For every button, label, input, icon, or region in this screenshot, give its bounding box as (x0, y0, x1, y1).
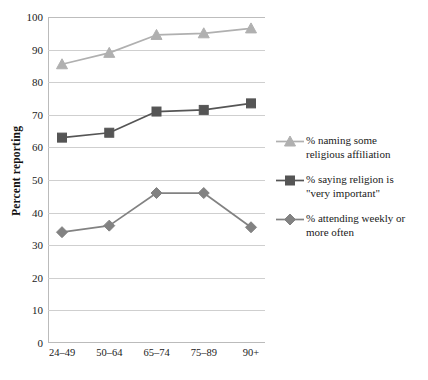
y-tick-label-100: 100 (3, 11, 43, 23)
y-tick-label-10: 10 (3, 304, 43, 316)
y-tick-label-0: 0 (3, 337, 43, 349)
data-point-2-4 (246, 222, 257, 233)
x-tick-label-4: 90+ (243, 347, 259, 358)
y-tick-label-80: 80 (3, 76, 43, 88)
data-point-1-0 (58, 133, 67, 142)
data-point-0-4 (246, 23, 257, 33)
data-point-2-3 (198, 188, 209, 199)
data-point-1-4 (247, 99, 256, 108)
y-tick-label-70: 70 (3, 109, 43, 121)
y-axis-tick-labels: 0102030405060708090100 (0, 17, 43, 343)
legend-marker-triangle-icon (276, 135, 304, 148)
y-tick-label-30: 30 (3, 239, 43, 251)
y-tick-label-50: 50 (3, 174, 43, 186)
y-tick-label-90: 90 (3, 44, 43, 56)
x-tick-label-2: 65–74 (143, 347, 169, 358)
y-tick-label-60: 60 (3, 141, 43, 153)
data-point-1-3 (199, 105, 208, 114)
line-chart: Percent reporting 0102030405060708090100… (0, 0, 428, 380)
series-2 (57, 188, 257, 238)
x-tick-label-1: 50–64 (96, 347, 122, 358)
legend-entry-0[interactable]: % naming somereligious affiliation (276, 134, 426, 161)
data-point-2-2 (151, 188, 162, 199)
data-point-2-1 (104, 220, 115, 231)
legend-marker-diamond-icon (276, 213, 304, 226)
legend-label-1-line2: "very important" (306, 187, 426, 201)
legend-label-1-line1: % saying religion is (306, 173, 426, 187)
y-tick-label-40: 40 (3, 207, 43, 219)
legend-entry-2[interactable]: % attending weekly ormore often (276, 212, 426, 239)
x-tick-label-0: 24–49 (49, 347, 75, 358)
x-axis-tick-labels: 24–4950–6465–7475–8990+ (48, 347, 265, 367)
data-point-1-1 (105, 128, 114, 137)
legend-marker-square-icon (276, 174, 304, 187)
data-point-2-0 (57, 227, 68, 238)
data-point-1-2 (152, 107, 161, 116)
y-tick-label-20: 20 (3, 272, 43, 284)
series-0 (57, 23, 257, 69)
series-1 (58, 99, 256, 142)
x-tick-label-3: 75–89 (191, 347, 217, 358)
legend-entry-1[interactable]: % saying religion is"very important" (276, 173, 426, 200)
legend-label-2-line2: more often (306, 226, 426, 240)
series-layer (48, 17, 265, 343)
legend-label-0-line2: religious affiliation (306, 148, 426, 162)
legend-label-0-line1: % naming some (306, 134, 426, 148)
data-point-0-1 (104, 47, 115, 57)
legend-label-2-line1: % attending weekly or (306, 212, 426, 226)
chart-legend: % naming somereligious affiliation% sayi… (276, 134, 426, 251)
